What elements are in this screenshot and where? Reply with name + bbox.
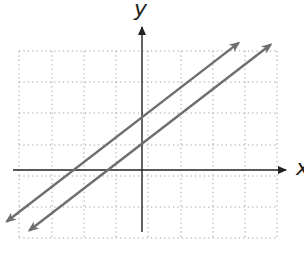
y-axis-label: y (134, 0, 147, 20)
series-line-1 (7, 43, 239, 222)
plot-area (0, 0, 304, 255)
series-line-2 (29, 44, 270, 230)
x-axis-label: x (296, 157, 304, 179)
